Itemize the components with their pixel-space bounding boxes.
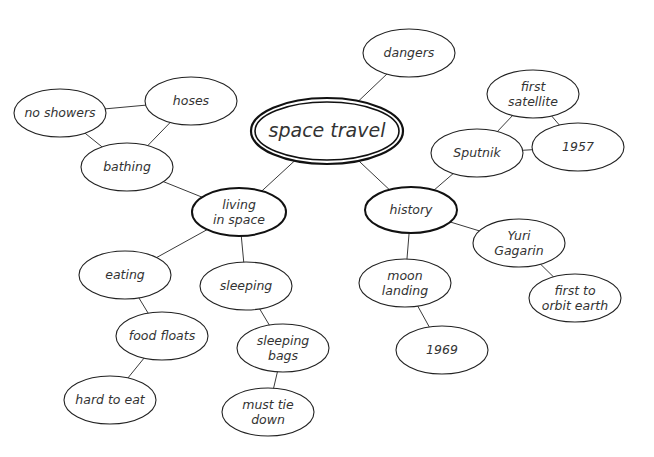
node-moon-landing: moonlanding — [359, 259, 451, 307]
node-label: eating — [105, 267, 145, 282]
node-label: hard to eat — [75, 392, 146, 407]
node-no-showers: no showers — [14, 89, 106, 137]
node-label: hoses — [173, 93, 210, 108]
node-first-satellite: firstsatellite — [487, 70, 579, 118]
nodes-layer: space traveldangerslivingin spacehistory… — [14, 29, 624, 436]
node-first-to-orbit-earth: first toorbit earth — [529, 274, 621, 322]
node-dangers: dangers — [363, 29, 455, 77]
node-label: Sputnik — [453, 145, 501, 160]
node-label: 1957 — [562, 139, 594, 154]
node-history: history — [365, 187, 457, 233]
node-label: moonlanding — [382, 268, 428, 298]
node-1957: 1957 — [532, 123, 624, 171]
node-label: space travel — [269, 119, 387, 141]
node-food-floats: food floats — [116, 312, 208, 360]
node-eating: eating — [79, 251, 171, 299]
node-space-travel: space travel — [251, 98, 403, 164]
node-1969: 1969 — [396, 326, 488, 374]
mind-map-canvas: space traveldangerslivingin spacehistory… — [0, 0, 654, 457]
node-sleeping-bags: sleepingbags — [237, 324, 329, 372]
node-living-in-space: livingin space — [192, 188, 286, 236]
node-hard-to-eat: hard to eat — [64, 376, 156, 424]
node-must-tie-down: must tiedown — [222, 388, 314, 436]
node-label: history — [390, 202, 434, 217]
node-label: food floats — [129, 328, 196, 343]
node-label: dangers — [384, 45, 435, 60]
node-label: no showers — [24, 105, 96, 120]
node-sputnik: Sputnik — [431, 129, 523, 177]
node-bathing: bathing — [81, 143, 173, 191]
node-sleeping: sleeping — [200, 262, 292, 310]
node-hoses: hoses — [145, 77, 237, 125]
node-yuri-gagarin: YuriGagarin — [473, 219, 565, 267]
node-label: bathing — [103, 159, 151, 174]
node-label: sleeping — [220, 278, 273, 293]
node-label: 1969 — [426, 342, 458, 357]
